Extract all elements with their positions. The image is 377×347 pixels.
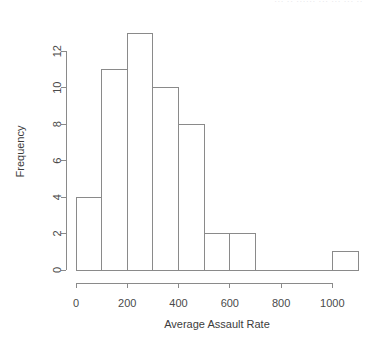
y-axis-tick-label: 2 [51, 230, 63, 236]
y-axis-tick-label: 4 [51, 194, 63, 200]
y-axis-tick-label: 12 [51, 45, 63, 57]
histogram-bar [230, 234, 256, 271]
histogram-bar [127, 33, 153, 270]
y-axis-title: Frequency [14, 125, 26, 177]
histogram-bar [76, 197, 102, 270]
x-axis-tick-label: 800 [272, 297, 290, 309]
histogram-figure: ··· ·· ······ ··· ··· ··· ·· 02468101202… [0, 0, 377, 347]
y-axis-tick-label: 6 [51, 158, 63, 164]
histogram-bar [204, 234, 230, 271]
x-axis-tick-label: 600 [221, 297, 239, 309]
histogram-bar [179, 124, 205, 270]
histogram-bar [102, 70, 128, 271]
x-axis-tick-label: 0 [73, 297, 79, 309]
x-axis-title: Average Assault Rate [164, 318, 270, 330]
plot-area: 02468101202004006008001000Average Assaul… [0, 0, 377, 347]
x-axis-tick-label: 1000 [320, 297, 344, 309]
y-axis-tick-label: 0 [51, 267, 63, 273]
y-axis-tick-label: 8 [51, 121, 63, 127]
y-axis-tick-label: 10 [51, 82, 63, 94]
x-axis-tick-label: 400 [169, 297, 187, 309]
histogram-chart-svg: 02468101202004006008001000Average Assaul… [0, 0, 377, 347]
histogram-bar [153, 88, 179, 270]
x-axis-tick-label: 200 [118, 297, 136, 309]
histogram-bar [332, 252, 358, 270]
